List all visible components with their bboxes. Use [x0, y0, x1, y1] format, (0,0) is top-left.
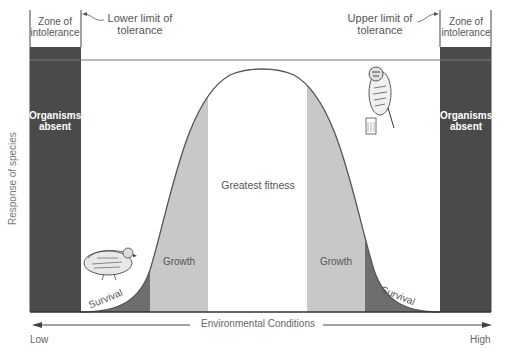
upper-limit-arrowhead — [434, 12, 439, 16]
right-growth-label: Growth — [307, 257, 365, 268]
upper-limit-pointer — [418, 14, 436, 22]
quail-perched-icon — [366, 67, 394, 134]
axis-arrow-right-head — [482, 322, 492, 328]
upper-limit-label: Upper limit of tolerance — [345, 13, 415, 36]
y-axis-label: Response of species — [8, 132, 19, 225]
right-zone-of-intolerance-label: Zone of intolerance — [441, 17, 491, 38]
left-organisms-absent-label: Organisms absent — [29, 111, 81, 132]
tolerance-diagram — [0, 0, 506, 355]
axis-arrow-left-head — [32, 322, 42, 328]
left-intolerance-zone — [30, 47, 81, 312]
right-growth-band — [307, 60, 365, 312]
x-axis-high-label: High — [470, 335, 491, 346]
quail-crouching-icon — [84, 248, 137, 280]
x-axis-low-label: Low — [30, 335, 48, 346]
lower-limit-label: Lower limit of tolerance — [105, 13, 175, 36]
x-axis-label: Environmental Conditions — [196, 319, 320, 330]
left-zone-of-intolerance-label: Zone of intolerance — [30, 17, 80, 38]
right-organisms-absent-label: Organisms absent — [440, 111, 492, 132]
lower-limit-arrowhead — [82, 12, 87, 16]
greatest-fitness-label: Greatest fitness — [218, 180, 298, 191]
left-growth-label: Growth — [150, 257, 208, 268]
right-intolerance-zone — [440, 47, 491, 312]
left-growth-band — [150, 60, 208, 312]
